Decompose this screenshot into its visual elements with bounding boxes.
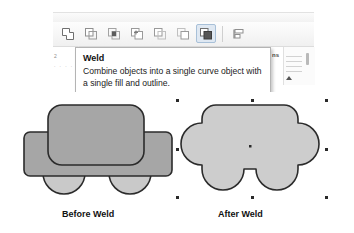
boundary-button[interactable] xyxy=(196,24,216,43)
trim-icon xyxy=(84,27,99,41)
screenshot-root: 2 . . . . ns Weld Combine objects into a… xyxy=(0,0,354,233)
align-distribute-button[interactable] xyxy=(229,24,249,43)
selection-handle-top-left[interactable] xyxy=(176,99,179,102)
shaping-toolbar xyxy=(53,22,314,47)
selection-handle-bottom-left[interactable] xyxy=(176,196,179,199)
boundary-icon xyxy=(199,27,214,41)
weld-icon xyxy=(61,27,76,41)
selection-handle-top-center[interactable] xyxy=(251,99,254,102)
simplify-button[interactable] xyxy=(127,24,147,43)
selection-handle-bottom-right[interactable] xyxy=(325,196,328,199)
selection-handle-top-right[interactable] xyxy=(325,99,328,102)
docker-scrollbar[interactable] xyxy=(306,53,309,65)
intersect-button[interactable] xyxy=(104,24,124,43)
car-roof-rect xyxy=(48,105,144,165)
docker-marker-icon xyxy=(286,76,292,80)
object-center-marker xyxy=(249,145,252,148)
simplify-icon xyxy=(130,27,145,41)
trim-button[interactable] xyxy=(81,24,101,43)
docker-partial-label: ns xyxy=(272,52,279,58)
weld-button[interactable] xyxy=(58,24,78,43)
front-minus-back-icon xyxy=(153,27,168,41)
tooltip-title: Weld xyxy=(83,52,264,64)
back-minus-front-icon xyxy=(176,27,191,41)
docker-content-lines xyxy=(286,56,302,76)
back-minus-front-button[interactable] xyxy=(173,24,193,43)
selection-handle-bottom-center[interactable] xyxy=(251,196,254,199)
after-weld-caption: After Weld xyxy=(218,209,263,219)
toolbar-separator xyxy=(222,26,223,42)
before-weld-caption: Before Weld xyxy=(62,209,114,219)
after-weld-drawing xyxy=(172,97,342,207)
shaping-toolbar-buttons xyxy=(58,24,249,43)
before-weld-drawing xyxy=(18,97,188,207)
selection-handle-middle-left[interactable] xyxy=(176,148,179,151)
selection-handle-middle-right[interactable] xyxy=(325,148,328,151)
tooltip-description: Combine objects into a single curve obje… xyxy=(83,65,264,89)
intersect-icon xyxy=(107,27,122,41)
align-distribute-icon xyxy=(232,27,247,41)
illustration-canvas: Before Weld After Weld xyxy=(0,92,354,233)
front-minus-back-button[interactable] xyxy=(150,24,170,43)
weld-tooltip: Weld Combine objects into a single curve… xyxy=(75,47,271,95)
